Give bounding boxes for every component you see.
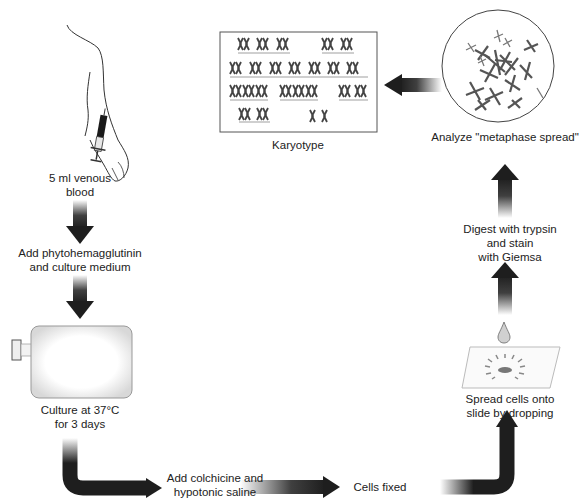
arrow-up-icon [491, 262, 519, 315]
label-line: 5 ml venous [40, 171, 120, 185]
label-line: hypotonic saline [160, 485, 270, 499]
step-fixed-label: Cells fixed [340, 480, 420, 494]
arm-with-syringe-icon [67, 25, 128, 181]
step-blood-label: 5 ml venous blood [40, 171, 120, 199]
step-culture-label: Culture at 37°C for 3 days [20, 403, 140, 431]
arrow-up-icon [491, 164, 519, 218]
slide-with-drop-icon [462, 322, 560, 388]
karyotype-chart-icon [220, 32, 377, 132]
label-line: with Giemsa [455, 250, 565, 264]
arrow-left-icon [384, 74, 442, 96]
label-line: and stain [455, 236, 565, 250]
label-line: Karyotype [258, 138, 338, 152]
label-line: Analyze "metaphase spread" [430, 130, 580, 144]
label-line: Add phytohemagglutinin [10, 246, 150, 260]
arrow-elbow-icon [70, 438, 162, 498]
label-line: Cells fixed [340, 480, 420, 494]
arrow-down-icon [66, 200, 94, 244]
label-line: Add colchicine and [160, 471, 270, 485]
culture-flask-icon [12, 326, 132, 398]
arrow-elbow-up-icon [440, 410, 518, 487]
arrow-down-icon [66, 275, 94, 319]
step-digest-label: Digest with trypsin and stain with Giems… [455, 222, 565, 264]
label-line: for 3 days [20, 417, 140, 431]
step-colchicine-label: Add colchicine and hypotonic saline [160, 471, 270, 499]
label-line: slide by dropping [455, 406, 565, 420]
label-line: and culture medium [10, 260, 150, 274]
step-analyze-label: Analyze "metaphase spread" [430, 130, 580, 144]
step-pha-label: Add phytohemagglutinin and culture mediu… [10, 246, 150, 274]
label-line: blood [40, 185, 120, 199]
label-line: Digest with trypsin [455, 222, 565, 236]
label-line: Culture at 37°C [20, 403, 140, 417]
metaphase-spread-icon [442, 10, 554, 122]
step-spread-label: Spread cells onto slide by dropping [455, 392, 565, 420]
karyotype-label: Karyotype [258, 138, 338, 152]
label-line: Spread cells onto [455, 392, 565, 406]
